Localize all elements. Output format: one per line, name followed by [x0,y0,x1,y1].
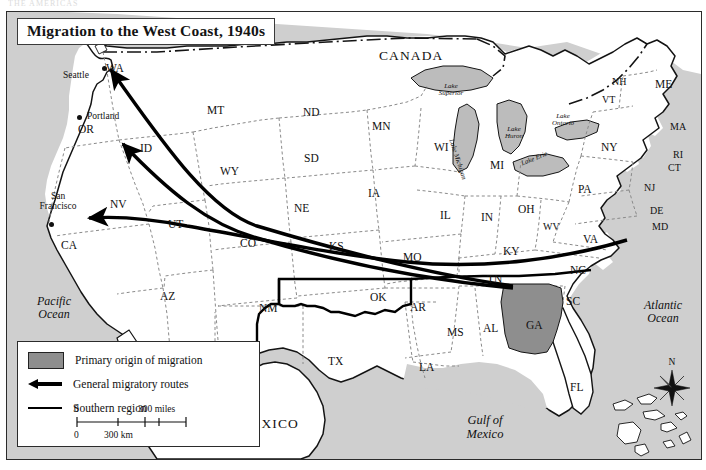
legend-label-routes: General migratory routes [73,378,189,390]
state-label-co: CO [240,237,256,249]
map-title: Migration to the West Coast, 1940s [17,18,275,45]
state-label-la: LA [419,361,434,373]
state-label-md: MD [652,221,668,232]
ocean-label-atlantic-line2: Ocean [629,312,697,325]
city-sf-line2: Francisco [29,202,87,212]
city-label-portland: Portland [87,111,119,121]
map-title-text: Migration to the West Coast, 1940s [27,22,265,39]
state-label-az: AZ [160,290,175,302]
state-label-vt: VT [602,94,615,105]
scale-km-end: 300 km [104,430,133,440]
legend-item-primary-origin: Primary origin of migration [28,352,202,368]
scale-miles-end: 300 miles [138,404,175,414]
state-label-nj: NJ [644,182,655,193]
state-label-mo: MO [403,251,422,263]
state-label-mt: MT [207,104,224,116]
state-label-mi: MI [490,159,504,171]
state-label-ok: OK [370,291,387,303]
legend-line-icon [28,407,62,409]
state-label-fl: FL [570,381,583,393]
state-label-ut: UT [168,218,183,230]
state-label-nh: NH [612,76,626,87]
state-label-ne: NE [294,202,309,214]
map-legend: Primary origin of migration General migr… [17,341,260,447]
state-label-ri: RI [673,149,683,160]
lake-superior-line2: Superior [431,90,471,97]
state-label-ms: MS [447,326,464,338]
legend-swatch-shaded [28,352,64,369]
gulf-label-line2: Mexico [447,427,523,441]
scale-bar-graphic [74,415,209,431]
state-label-wi: WI [434,141,449,153]
country-label-canada: CANADA [379,48,443,64]
state-label-ca: CA [61,239,77,251]
state-label-va: VA [583,233,598,245]
state-label-pa: PA [578,183,592,195]
city-dot-san-francisco [49,222,54,227]
state-label-wa: WA [106,62,124,74]
lake-label-superior: Lake Superior [431,83,471,98]
state-label-ar: AR [410,301,426,313]
state-label-sd: SD [304,152,319,164]
city-dot-seattle [102,66,107,71]
compass-north-label: N [652,357,692,367]
map-frame: Migration to the West Coast, 1940s CANAD… [6,11,702,460]
state-label-ia: IA [368,187,380,199]
legend-label-primary-origin: Primary origin of migration [75,354,202,366]
lake-label-ontario: Lake Ontario [545,113,581,128]
lake-ontario-line2: Ontario [545,120,581,127]
scale-bar: 0 300 miles 0 300 km [74,404,209,442]
legend-item-routes: General migratory routes [28,376,189,392]
state-label-ks: KS [329,240,344,252]
ocean-label-pacific: Pacific Ocean [23,295,85,322]
state-label-wv: WV [543,221,560,232]
state-label-tn: TN [487,273,502,285]
city-label-san-francisco: San Francisco [29,192,87,212]
ocean-label-atlantic: Atlantic Ocean [629,299,697,326]
state-label-ct: CT [668,162,681,173]
state-label-nv: NV [110,198,127,210]
state-label-wy: WY [220,165,239,177]
state-label-ny: NY [601,141,618,153]
state-label-in: IN [481,211,493,223]
lake-label-huron: Lake Huron [497,126,531,141]
state-label-de: DE [650,205,663,216]
state-label-il: IL [440,209,451,221]
state-label-sc: SC [566,295,580,307]
lake-huron-line2: Huron [497,133,531,140]
state-label-ky: KY [503,245,520,257]
city-label-seattle: Seattle [63,70,89,80]
state-label-tx: TX [328,355,343,367]
ocean-label-pacific-line2: Ocean [23,308,85,321]
water-label-gulf-of-mexico: Gulf of Mexico [447,413,523,441]
state-label-mn: MN [372,120,391,132]
state-label-ga: GA [526,319,543,331]
ocean-label-pacific-line1: Pacific [23,295,85,308]
state-label-nm: NM [259,302,278,314]
state-label-or: OR [78,123,94,135]
state-label-oh: OH [518,203,535,215]
scale-km-start: 0 [74,430,79,440]
map-screenshot: THE AMERICAS [0,0,706,470]
ocean-label-atlantic-line1: Atlantic [629,299,697,312]
compass-star-icon [652,368,692,408]
scale-miles-start: 0 [74,404,79,414]
compass-rose: N [652,357,692,409]
state-label-me: ME [655,78,672,90]
state-label-ma: MA [670,121,686,132]
state-label-al: AL [483,322,498,334]
gulf-label-line1: Gulf of [447,413,523,427]
scan-header-text: THE AMERICAS [8,0,208,8]
state-label-nd: ND [303,106,320,118]
state-label-id: ID [140,142,152,154]
city-dot-portland [77,115,82,120]
state-label-nc: NC [570,264,586,276]
legend-arrow-icon [28,379,62,389]
